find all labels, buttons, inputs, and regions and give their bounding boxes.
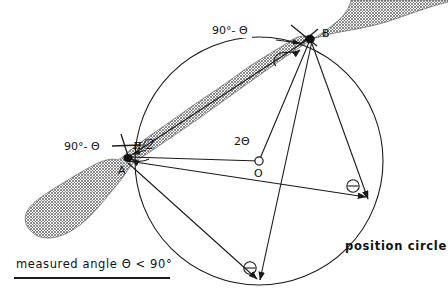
centre-o-open-circle: [255, 157, 263, 165]
point-label-o-text: O: [254, 167, 263, 180]
point-label-b: B: [322, 28, 330, 39]
angle-label-at-a-text: 90°- Θ: [64, 140, 100, 153]
figure-caption-text: measured angle Θ < 90°: [16, 257, 172, 271]
point-label-b-text: B: [322, 27, 330, 40]
position-circle-diagram: 90°- Θ 90°- Θ π/2 2Θ A B O position circ…: [0, 0, 448, 301]
legend-position-circle-text: position circle: [345, 239, 447, 253]
point-b-dot: [305, 35, 315, 43]
caption-underline: [14, 277, 170, 279]
theta-glyph-outlines: [244, 180, 359, 274]
baseline-chord-ab: [127, 38, 310, 158]
angle-label-at-a: 90°- Θ: [60, 140, 104, 154]
right-angle-label-a: π/2: [133, 137, 154, 152]
central-angle-label-text: 2Θ: [234, 135, 250, 148]
ray-a-observer-right: [128, 161, 366, 197]
legend-position-circle: position circle: [345, 241, 447, 253]
point-a-dot: [123, 154, 132, 162]
right-angle-label-a-text: π/2: [133, 137, 154, 152]
ray-b-observer-bottom: [260, 41, 312, 280]
point-label-a-text: A: [118, 164, 126, 177]
point-label-a: A: [118, 165, 126, 176]
angle-label-at-b: 90°- Θ: [208, 24, 252, 38]
ray-b-observer-right: [311, 41, 368, 199]
point-label-o: O: [254, 168, 263, 179]
radius-oa: [130, 157, 259, 161]
figure-caption: measured angle Θ < 90°: [16, 259, 172, 271]
angle-label-at-b-text: 90°- Θ: [212, 24, 248, 37]
central-angle-label: 2Θ: [234, 136, 250, 147]
